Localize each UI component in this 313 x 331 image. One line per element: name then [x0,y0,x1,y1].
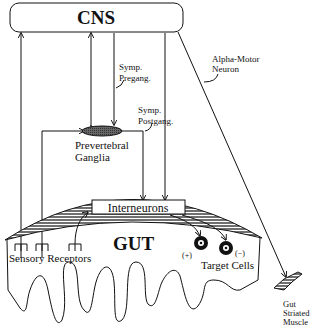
alpha-motor-line1: Alpha-Motor [212,54,260,64]
symp-pregang-line2: Pregang. [119,73,151,83]
enteric-nervous-system-diagram: CNS Symp. Pregang. Prevertebral Ganglia … [0,0,313,331]
target-cells-label: Target Cells [201,259,254,271]
cns-label: CNS [77,7,115,28]
cns-box: CNS [10,3,183,32]
gut-muscle-line3: Muscle [283,317,308,327]
gut-label: GUT [113,233,155,254]
symp-postgang-path: Symp. Postgang. [122,33,173,200]
gut-striated-muscle: Gut Striated Muscle [274,272,310,327]
alpha-motor-line2: Neuron [212,64,239,74]
target-cell-plus: (+) [182,251,192,260]
ganglia-line1: Prevertebral [75,139,129,151]
interneurons-label: Interneurons [108,201,169,215]
symp-postgang-line1: Symp. [138,105,161,115]
interneurons-box: Interneurons [92,200,185,215]
prevertebral-ganglia: Prevertebral Ganglia [75,126,129,163]
symp-pregang-line1: Symp. [119,62,142,72]
symp-postgang-line2: Postgang. [138,116,173,126]
ganglia-line2: Ganglia [75,151,110,163]
sensory-receptors-label: Sensory Receptors [9,252,91,264]
target-cell-minus: (−) [235,249,245,258]
alpha-motor-neuron-path: Alpha-Motor Neuron [178,32,286,277]
